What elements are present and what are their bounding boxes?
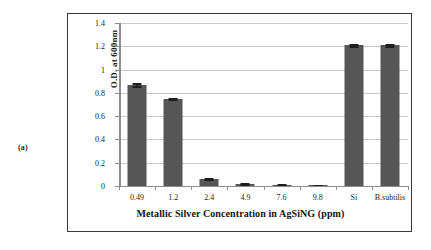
- x-tick-label: 7.6: [277, 193, 287, 202]
- y-tick-label: 0.8: [68, 88, 112, 97]
- y-tick-mark: [115, 116, 119, 117]
- y-axis-line: [119, 23, 121, 187]
- x-tick-mark: [191, 186, 192, 190]
- panel-label: (a): [18, 143, 28, 152]
- x-tick-mark: [155, 186, 156, 190]
- x-tick-label: Si: [350, 193, 357, 202]
- x-tick-label: 9.8: [313, 193, 323, 202]
- error-bar-cap-bottom: [133, 86, 142, 88]
- error-bar-cap-bottom: [385, 46, 394, 48]
- y-tick-label: 0.4: [68, 135, 112, 144]
- error-bar-cap-bottom: [169, 99, 178, 101]
- y-tick-mark: [115, 93, 119, 94]
- figure-frame: O.D. at 600nm 00.20.40.60.811.21.4 0.491…: [67, 13, 412, 232]
- bar-group: [336, 23, 372, 186]
- bar-group: [372, 23, 408, 186]
- x-tick-mark: [372, 186, 373, 190]
- bar-group: [227, 23, 263, 186]
- y-tick-label: 1.2: [68, 42, 112, 51]
- error-bar-cap-bottom: [205, 180, 214, 182]
- y-tick-label: 0: [68, 182, 112, 191]
- x-tick-mark: [336, 186, 337, 190]
- x-tick-label: 4.9: [240, 193, 250, 202]
- bar-group: [264, 23, 300, 186]
- y-tick-label: 1: [68, 65, 112, 74]
- bar-chart: O.D. at 600nm 00.20.40.60.811.21.4 0.491…: [68, 14, 413, 233]
- y-tick-mark: [115, 46, 119, 47]
- x-tick-mark: [227, 186, 228, 190]
- plot-area: [119, 23, 408, 186]
- x-tick-mark: [119, 186, 120, 190]
- y-tick-mark: [115, 139, 119, 140]
- bar: [164, 99, 183, 186]
- y-tick-mark: [115, 23, 119, 24]
- bar-group: [300, 23, 336, 186]
- bar-group: [191, 23, 227, 186]
- y-tick-label: 0.2: [68, 158, 112, 167]
- bar-group: [119, 23, 155, 186]
- x-tick-label: B.subtilis: [375, 193, 405, 202]
- x-tick-mark: [408, 186, 409, 190]
- x-tick-label: 1.2: [168, 193, 178, 202]
- bar-group: [155, 23, 191, 186]
- y-tick-label: 1.4: [68, 19, 112, 28]
- y-tick-mark: [115, 163, 119, 164]
- error-bar-cap-bottom: [349, 46, 358, 48]
- bar: [344, 45, 363, 186]
- x-tick-mark: [300, 186, 301, 190]
- bar: [128, 85, 147, 186]
- x-tick-label: 0.49: [130, 193, 144, 202]
- x-tick-mark: [264, 186, 265, 190]
- x-tick-label: 2.4: [204, 193, 214, 202]
- y-tick-mark: [115, 70, 119, 71]
- bar: [380, 45, 399, 186]
- error-bar-cap-top: [133, 83, 142, 85]
- x-axis-title: Metallic Silver Concentration in AgSiNG …: [68, 208, 413, 219]
- y-tick-label: 0.6: [68, 112, 112, 121]
